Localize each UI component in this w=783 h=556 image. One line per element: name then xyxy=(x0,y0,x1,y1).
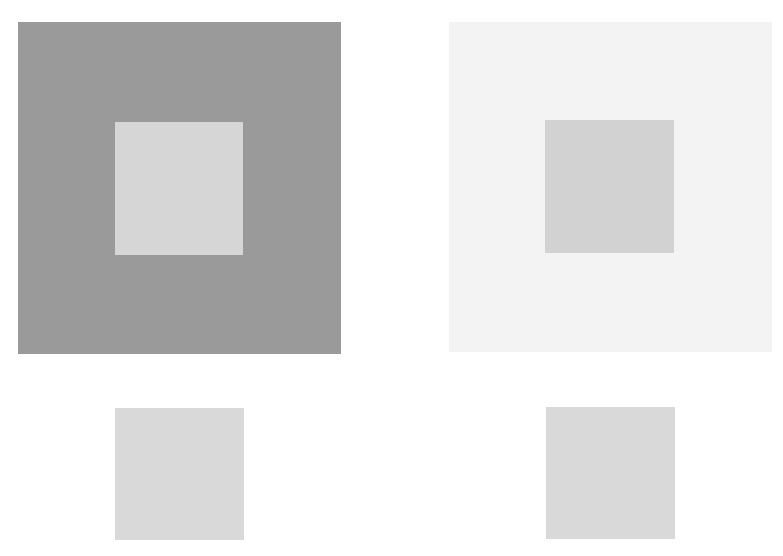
reference-swatch-left xyxy=(115,408,244,540)
reference-swatch-right xyxy=(546,407,675,539)
target-square-on-dark xyxy=(115,122,243,255)
target-square-on-light xyxy=(545,120,674,253)
